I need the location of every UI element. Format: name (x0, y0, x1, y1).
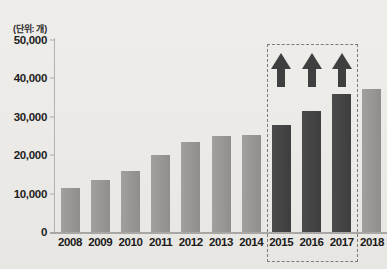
arrow-shaft (338, 67, 346, 87)
arrow-shaft (277, 67, 285, 87)
x-tick-label-2011: 2011 (149, 236, 172, 248)
arrow-shaft (308, 67, 316, 87)
x-tick-label-2013: 2013 (209, 236, 233, 248)
x-tick-label-2008: 2008 (58, 236, 82, 248)
arrow-up-icon-2017 (332, 53, 352, 87)
x-tick-label-2016: 2016 (300, 236, 324, 248)
x-axis-labels: 2008200920102011201220132014201520162017… (55, 236, 387, 254)
x-tick-label-2010: 2010 (118, 236, 142, 248)
x-tick-label-2015: 2015 (269, 236, 293, 248)
x-tick-label-2018: 2018 (360, 236, 384, 248)
arrow-up-icon-2015 (271, 53, 291, 87)
growth-arrow-annotations (0, 0, 387, 269)
x-tick-label-2014: 2014 (239, 236, 263, 248)
arrow-up-icon-2016 (302, 53, 322, 87)
x-tick-label-2012: 2012 (179, 236, 203, 248)
x-tick-label-2009: 2009 (88, 236, 112, 248)
bar-chart: (단위: 개) 010,00020,00030,00040,00050,000 … (0, 0, 387, 269)
x-tick-label-2017: 2017 (330, 236, 354, 248)
